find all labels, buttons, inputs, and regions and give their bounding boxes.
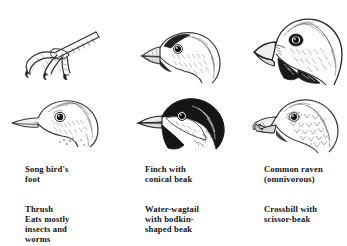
- caption-song-bird-foot: Song bird's foot: [25, 164, 137, 184]
- thrush-head-icon: [8, 90, 108, 148]
- caption-finch: Finch with conical beak: [145, 164, 257, 184]
- caption-crossbill: Crossbill with scissor-beak: [264, 204, 347, 224]
- raven-head-icon: [252, 14, 344, 86]
- caption-column-3: Common raven (omnivorous) Crossbill with…: [264, 154, 347, 234]
- crossbill-head-icon: [250, 92, 342, 154]
- caption-water-wagtail: Water-wagtail with bodkin- shaped beak: [145, 204, 257, 235]
- bird-foot-claw-icon: [12, 24, 104, 80]
- water-wagtail-head-icon: [136, 90, 232, 150]
- caption-thrush: Thrush Eats mostly insects and worms: [25, 204, 137, 245]
- caption-column-1: Song bird's foot Thrush Eats mostly inse…: [25, 154, 137, 246]
- caption-common-raven: Common raven (omnivorous): [264, 164, 347, 184]
- caption-column-2: Finch with conical beak Water-wagtail wi…: [145, 154, 257, 245]
- finch-head-icon: [138, 24, 228, 84]
